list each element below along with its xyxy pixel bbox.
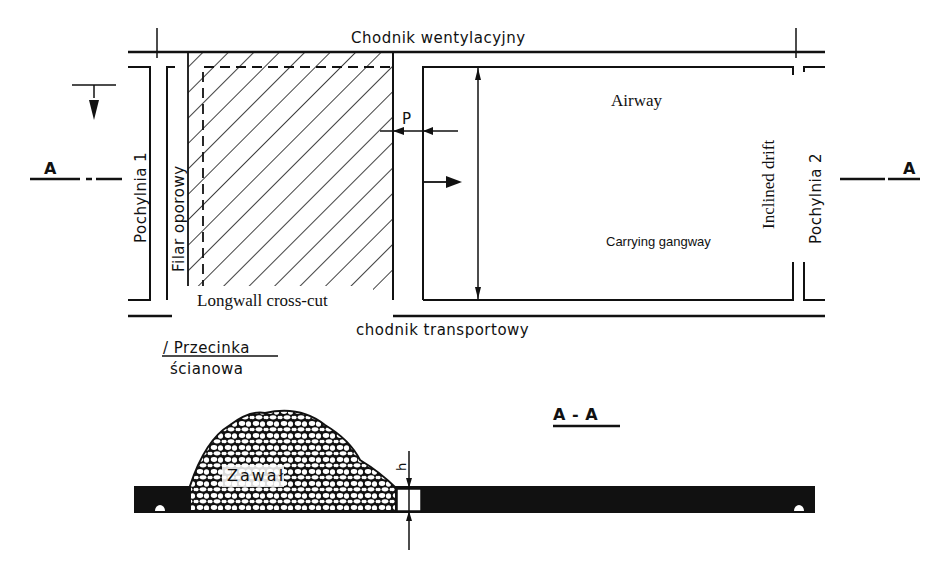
diagram-drawing xyxy=(0,0,948,568)
airway-label: Airway xyxy=(611,92,662,109)
section-marker-left: A xyxy=(44,161,57,177)
inclined-drift-label: Inclined drift xyxy=(760,140,777,229)
bottom-roadway-label: chodnik transportowy xyxy=(356,323,529,338)
longwall-cross-cut-label: Longwall cross-cut xyxy=(197,292,328,309)
top-roadway-label: Chodnik wentylacyjny xyxy=(351,31,526,46)
section-title: A - A xyxy=(553,407,598,423)
mining-diagram: Chodnik wentylacyjny chodnik transportow… xyxy=(0,0,948,568)
carrying-gangway-label: Carrying gangway xyxy=(606,235,711,248)
section-marker-right: A xyxy=(903,161,916,177)
cave-in-label: Zawał xyxy=(227,468,285,484)
dimension-h-label: h xyxy=(395,462,408,471)
dimension-p-label: P xyxy=(402,112,412,127)
left-drift-label: Pochylnia 1 xyxy=(134,152,149,243)
support-pillar-label: Filar oporowy xyxy=(172,165,187,272)
cross-cut-pl-line2: ścianowa xyxy=(170,362,244,377)
cross-cut-pl-line1: / Przecinka xyxy=(163,341,250,356)
plan-view xyxy=(30,28,920,356)
right-drift-label: Pochylnia 2 xyxy=(809,153,824,244)
